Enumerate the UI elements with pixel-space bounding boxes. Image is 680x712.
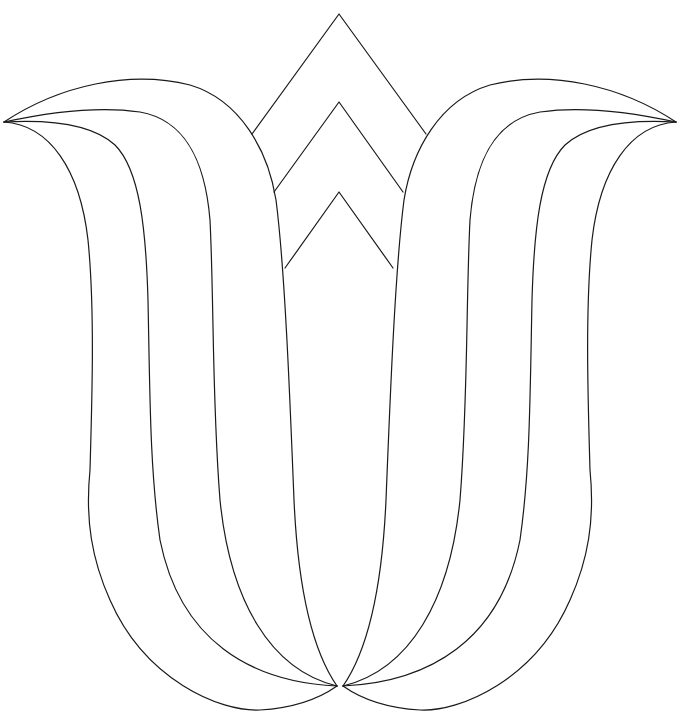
left-petal-outer-edge bbox=[4, 122, 337, 710]
right-petal-outer-edge bbox=[343, 122, 676, 710]
chevron-bottom bbox=[285, 192, 393, 268]
tulip-drawing: Tulip outline coloring page bbox=[0, 0, 680, 712]
left-petal-stripe-3 bbox=[4, 121, 337, 686]
right-petal-stripe-3 bbox=[343, 121, 676, 686]
right-petal-stripe-2 bbox=[343, 110, 676, 686]
left-petal-stripe-2 bbox=[4, 110, 337, 686]
chevron-middle bbox=[274, 102, 403, 192]
left-petal-inner-edge bbox=[4, 79, 337, 686]
chevron-top bbox=[252, 14, 426, 134]
right-petal-inner-edge bbox=[343, 79, 676, 686]
